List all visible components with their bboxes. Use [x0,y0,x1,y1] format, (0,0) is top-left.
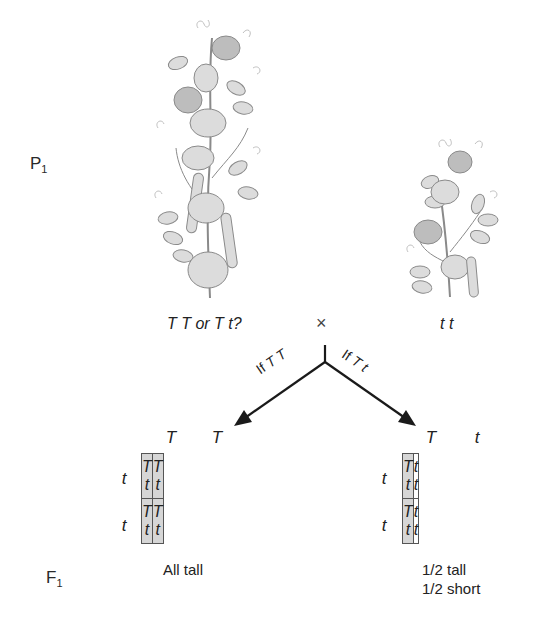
punnett-cell: T t [403,499,414,544]
generation-subscript: 1 [41,163,47,175]
column-allele: T [148,428,194,448]
punnett-cell: T t [142,499,153,544]
outcome-label: 1/2 tall 1/2 short [422,560,480,598]
column-allele: T [408,428,454,448]
generation-letter: P [30,154,41,173]
cross-symbol: × [316,313,327,334]
punnett-cell: T t [142,454,153,499]
genotype-text: T T or T t? [167,315,242,332]
row-allele: t [376,516,392,536]
row-allele: t [116,469,132,489]
punnett-cell: T t [152,454,163,499]
short-pea-plant-image [400,132,510,302]
punnett-cell: t t [413,454,418,499]
pea-plant-icon [148,8,270,300]
column-allele: T [194,428,240,448]
cross-branch-arrows [230,340,420,430]
punnett-grid: T t t t T t t t [402,453,419,544]
generation-subscript: 1 [56,577,62,589]
tall-pea-plant-image [148,8,270,300]
outcome-line: 1/2 short [422,579,480,598]
column-allele: t [454,428,500,448]
outcome-label: All tall [163,560,203,579]
pea-plant-icon [400,132,510,302]
tall-plant-genotype: T T or T t? [167,315,242,333]
row-allele: t [376,469,392,489]
punnett-cell: T t [403,454,414,499]
generation-label-f1: F1 [46,568,63,589]
generation-letter: F [46,568,56,587]
punnett-cell: T t [152,499,163,544]
generation-label-p1: P1 [30,154,47,175]
punnett-cell: t t [413,499,418,544]
genotype-text: t t [440,315,453,332]
row-allele: t [116,516,132,536]
branch-arrows-icon [230,340,420,430]
short-plant-genotype: t t [440,315,453,333]
punnett-grid: T t T t T t T t [141,453,164,544]
outcome-line: 1/2 tall [422,560,480,579]
